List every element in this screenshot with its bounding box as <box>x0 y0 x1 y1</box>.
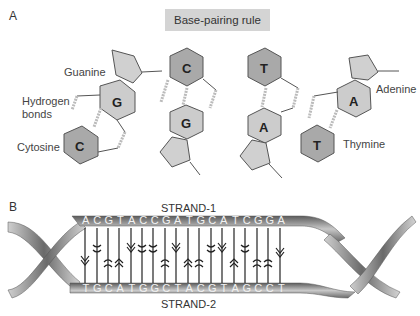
label-hydrogen: Hydrogen <box>22 95 70 108</box>
nucleotide: A <box>172 214 184 226</box>
base-t-4: T <box>313 138 321 153</box>
base-a-3: A <box>259 120 269 135</box>
nucleotide: A <box>276 214 288 226</box>
label-bonds: bonds <box>22 108 70 121</box>
nucleotide: G <box>92 282 104 294</box>
nucleotide: G <box>241 282 253 294</box>
strand-2-label: STRAND-2 <box>161 298 216 310</box>
base-t-3: T <box>260 61 268 76</box>
nucleotide: T <box>172 282 184 294</box>
nucleotide: A <box>230 282 242 294</box>
label-adenine: Adenine <box>376 83 416 96</box>
base-pair-bonds <box>81 228 284 283</box>
nucleotide: T <box>80 282 92 294</box>
strand-1-label: STRAND-1 <box>161 202 216 214</box>
base-g-2: G <box>181 116 191 131</box>
base-g-1: G <box>112 95 122 110</box>
base-pair-structures: G C C G T A A T <box>0 0 420 316</box>
label-guanine: Guanine <box>64 66 106 79</box>
base-a-4: A <box>349 94 359 109</box>
nucleotide: C <box>138 214 150 226</box>
nucleotide: G <box>207 282 219 294</box>
nucleotide: C <box>253 282 265 294</box>
nucleotide: C <box>264 282 276 294</box>
label-hydrogen-bonds: Hydrogen bonds <box>22 95 70 121</box>
nucleotide: C <box>241 214 253 226</box>
base-c-1: C <box>75 139 85 154</box>
nucleotide: T <box>184 214 196 226</box>
strand-1-sequence: A C G T A C C G A T G C A T C G G A <box>80 214 287 226</box>
nucleotide: G <box>138 282 150 294</box>
nucleotide: G <box>253 214 265 226</box>
nucleotide: T <box>126 282 138 294</box>
nucleotide: G <box>264 214 276 226</box>
nucleotide: G <box>103 214 115 226</box>
label-thymine: Thymine <box>343 138 385 151</box>
nucleotide: T <box>276 282 288 294</box>
nucleotide: T <box>230 214 242 226</box>
nucleotide: C <box>103 282 115 294</box>
base-c-2: C <box>182 61 192 76</box>
nucleotide: G <box>149 282 161 294</box>
nucleotide: A <box>218 214 230 226</box>
pair-t-a-3 <box>240 48 298 178</box>
nucleotide: G <box>161 214 173 226</box>
nucleotide: G <box>195 214 207 226</box>
nucleotide: C <box>161 282 173 294</box>
nucleotide: A <box>115 282 127 294</box>
nucleotide: C <box>207 214 219 226</box>
nucleotide: C <box>195 282 207 294</box>
nucleotide: A <box>126 214 138 226</box>
nucleotide: A <box>80 214 92 226</box>
nucleotide: A <box>184 282 196 294</box>
nucleotide: T <box>218 282 230 294</box>
nucleotide: C <box>92 214 104 226</box>
panel-b-label: B <box>9 200 17 214</box>
nucleotide: T <box>115 214 127 226</box>
strand-2-sequence: T G C A T G G C T A C G T A G C C T <box>80 282 287 294</box>
label-cytosine: Cytosine <box>17 141 60 154</box>
nucleotide: C <box>149 214 161 226</box>
